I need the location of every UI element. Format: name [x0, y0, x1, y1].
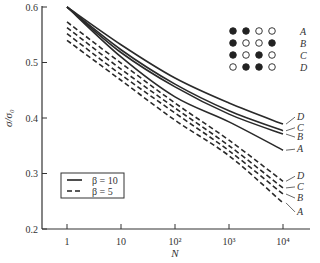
filled-dot-icon — [243, 64, 250, 71]
filled-dot-icon — [256, 52, 263, 59]
x-axis-title: N — [170, 247, 179, 259]
legend-label: β = 10 — [92, 175, 118, 186]
x-tick-label: 10 — [116, 236, 126, 247]
dot-patterns-key: ABCD — [230, 26, 308, 73]
curve-label: B — [297, 131, 303, 142]
open-dot-icon — [256, 28, 263, 35]
curve-d-beta-5 — [67, 22, 283, 181]
dot-pattern-label: D — [299, 62, 308, 73]
x-tick-label: 10² — [169, 236, 182, 247]
open-dot-icon — [269, 28, 276, 35]
open-dot-icon — [269, 64, 276, 71]
open-dot-icon — [269, 52, 276, 59]
filled-dot-icon — [243, 28, 250, 35]
curve-b-beta-10 — [67, 7, 283, 134]
chart: 0.20.30.40.50.611010²10³10⁴Nσ/σ₀ DCBADCB… — [0, 0, 320, 263]
x-tick-label: 10⁴ — [276, 236, 290, 247]
curve-label: A — [296, 143, 304, 154]
x-tick-label: 10³ — [223, 236, 236, 247]
y-tick-label: 0.6 — [26, 2, 39, 13]
y-tick-label: 0.5 — [26, 57, 39, 68]
y-tick-label: 0.3 — [26, 168, 39, 179]
filled-dot-icon — [230, 40, 237, 47]
curve-c-beta-5 — [67, 28, 283, 188]
curve-d-beta-10 — [67, 7, 283, 124]
dot-pattern-label: A — [299, 26, 307, 37]
y-axis-title: σ/σ₀ — [2, 109, 14, 127]
open-dot-icon — [243, 52, 250, 59]
filled-dot-icon — [256, 64, 263, 71]
open-dot-icon — [243, 40, 250, 47]
filled-dot-icon — [230, 52, 237, 59]
x-tick-label: 1 — [65, 236, 70, 247]
y-tick-label: 0.4 — [26, 113, 39, 124]
y-tick-label: 0.2 — [26, 224, 39, 235]
curve-label: D — [296, 170, 305, 181]
legend: β = 10β = 5 — [61, 173, 124, 198]
curve-labels: DCBADCBA — [286, 111, 305, 217]
dot-pattern-label: C — [300, 50, 307, 61]
curve-b-beta-5 — [67, 34, 283, 194]
curve-label: B — [297, 192, 303, 203]
dot-pattern-label: B — [300, 38, 306, 49]
open-dot-icon — [256, 40, 263, 47]
axes: 0.20.30.40.50.611010²10³10⁴Nσ/σ₀ — [2, 2, 310, 260]
filled-dot-icon — [269, 40, 276, 47]
legend-label: β = 5 — [92, 186, 113, 197]
curve-label: C — [297, 181, 304, 192]
curve-label: A — [296, 206, 304, 217]
open-dot-icon — [230, 64, 237, 71]
curve-label: D — [296, 111, 305, 122]
filled-dot-icon — [230, 28, 237, 35]
